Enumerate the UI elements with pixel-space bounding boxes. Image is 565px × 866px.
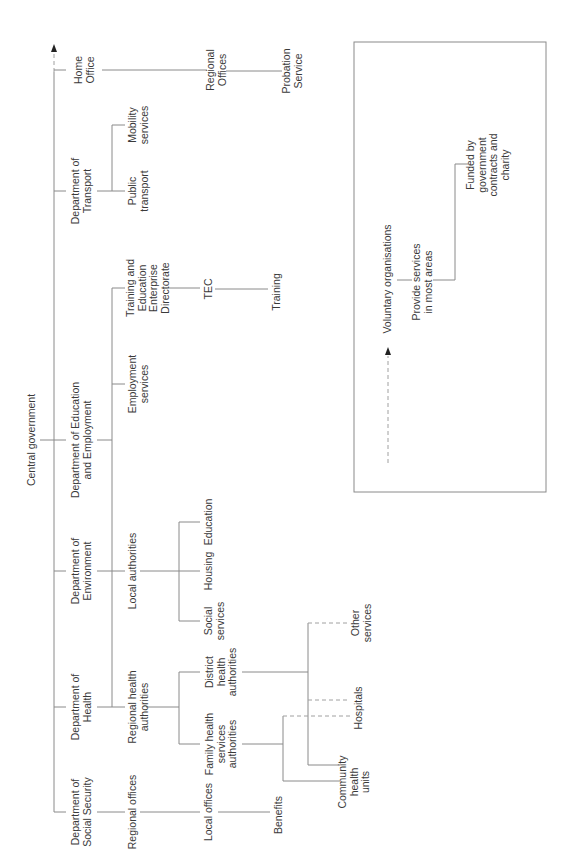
social-services: Social services xyxy=(203,602,226,641)
hospitals: Hospitals xyxy=(353,686,365,729)
regional-health-authorities: Regional health authorities xyxy=(127,671,150,744)
training-education-enterprise-directorate: Training and Education Enterprise Direct… xyxy=(125,259,171,317)
training: Training xyxy=(271,273,283,311)
family-health-services-authorities: Family health services authorities xyxy=(204,713,239,775)
other-services: Other services xyxy=(350,604,373,643)
dept-education-employment: Department of Education and Employment xyxy=(70,382,93,498)
district-health-authorities: District health authorities xyxy=(204,648,239,696)
community-health-units: Community health units xyxy=(337,755,372,808)
probation-service: Probation Service xyxy=(281,49,304,94)
local-offices: Local offices xyxy=(203,783,215,841)
benefits: Benefits xyxy=(273,796,285,834)
housing: Housing xyxy=(203,552,215,591)
education: Education xyxy=(203,499,215,546)
home-office-regional-offices: Regional Offices xyxy=(205,49,228,90)
arrow-up-icon xyxy=(385,347,391,355)
provide-services-label: Provide services in most areas xyxy=(411,243,434,320)
regional-offices: Regional offices xyxy=(127,775,139,850)
dept-social-security: Department of Social Security xyxy=(70,777,93,846)
funded-by-label: Funded by government contracts and chari… xyxy=(465,133,511,196)
tec: TEC xyxy=(203,279,215,300)
voluntary-organisations-title: Voluntary organisations xyxy=(382,224,394,333)
central-government-label: Central government xyxy=(26,394,38,486)
arrow-up-icon xyxy=(51,44,57,52)
dept-transport: Department of Transport xyxy=(70,158,93,225)
org-chart: Central government Department of Social … xyxy=(0,0,565,866)
dept-health: Department of Health xyxy=(70,674,93,741)
mobility-services: Mobility services xyxy=(127,106,150,145)
employment-services: Employment services xyxy=(127,355,150,413)
local-authorities: Local authorities xyxy=(127,533,139,609)
dept-environment: Department of Environment xyxy=(70,538,93,605)
dept-home-office: Home Office xyxy=(73,56,96,84)
public-transport: Public transport xyxy=(127,170,150,211)
